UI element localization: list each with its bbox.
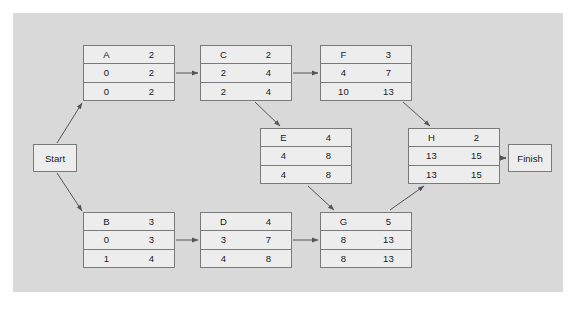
node-a-early-start: 0 bbox=[84, 68, 129, 78]
node-h-late-finish: 15 bbox=[454, 170, 499, 180]
node-b-late-start: 1 bbox=[84, 254, 129, 264]
node-h-name: H bbox=[409, 133, 454, 143]
node-g-late-finish: 13 bbox=[366, 254, 411, 264]
node-d-row-name: D 4 bbox=[201, 213, 291, 231]
node-c-row-name: C 2 bbox=[201, 46, 291, 64]
node-h-early-finish: 15 bbox=[454, 151, 499, 161]
node-b-row-early: 0 3 bbox=[84, 231, 174, 249]
node-b-late-finish: 4 bbox=[129, 254, 174, 264]
node-g-early-finish: 13 bbox=[366, 235, 411, 245]
node-g-row-early: 8 13 bbox=[321, 231, 411, 249]
node-g-duration: 5 bbox=[366, 217, 411, 227]
node-e-row-name: E 4 bbox=[261, 129, 351, 147]
node-a-row-name: A 2 bbox=[84, 46, 174, 64]
node-a-late-start: 0 bbox=[84, 87, 129, 97]
node-d[interactable]: D 4 3 7 4 8 bbox=[200, 212, 292, 268]
terminal-finish[interactable]: Finish bbox=[508, 144, 552, 172]
node-g-late-start: 8 bbox=[321, 254, 366, 264]
node-c-row-early: 2 4 bbox=[201, 64, 291, 82]
node-f[interactable]: F 3 4 7 10 13 bbox=[320, 45, 412, 101]
node-g[interactable]: G 5 8 13 8 13 bbox=[320, 212, 412, 268]
terminal-start-label: Start bbox=[45, 153, 65, 164]
node-c-name: C bbox=[201, 50, 246, 60]
node-f-row-early: 4 7 bbox=[321, 64, 411, 82]
diagram-page: Start Finish A 2 0 2 0 2 C 2 2 4 2 4 bbox=[0, 0, 577, 310]
node-e[interactable]: E 4 4 8 4 8 bbox=[260, 128, 352, 184]
node-f-early-start: 4 bbox=[321, 68, 366, 78]
node-a-late-finish: 2 bbox=[129, 87, 174, 97]
node-b-early-start: 0 bbox=[84, 235, 129, 245]
node-e-late-start: 4 bbox=[261, 170, 306, 180]
node-f-row-late: 10 13 bbox=[321, 83, 411, 100]
node-f-name: F bbox=[321, 50, 366, 60]
node-b[interactable]: B 3 0 3 1 4 bbox=[83, 212, 175, 268]
node-g-name: G bbox=[321, 217, 366, 227]
node-a-duration: 2 bbox=[129, 50, 174, 60]
node-h[interactable]: H 2 13 15 13 15 bbox=[408, 128, 500, 184]
node-d-row-early: 3 7 bbox=[201, 231, 291, 249]
node-c-early-start: 2 bbox=[201, 68, 246, 78]
node-d-duration: 4 bbox=[246, 217, 291, 227]
node-h-early-start: 13 bbox=[409, 151, 454, 161]
terminal-start[interactable]: Start bbox=[33, 144, 77, 172]
node-a-name: A bbox=[84, 50, 129, 60]
node-a-early-finish: 2 bbox=[129, 68, 174, 78]
node-a-row-early: 0 2 bbox=[84, 64, 174, 82]
node-h-duration: 2 bbox=[454, 133, 499, 143]
node-f-row-name: F 3 bbox=[321, 46, 411, 64]
node-b-early-finish: 3 bbox=[129, 235, 174, 245]
node-c-late-start: 2 bbox=[201, 87, 246, 97]
node-c-row-late: 2 4 bbox=[201, 83, 291, 100]
node-f-duration: 3 bbox=[366, 50, 411, 60]
node-b-name: B bbox=[84, 217, 129, 227]
node-c-early-finish: 4 bbox=[246, 68, 291, 78]
node-a[interactable]: A 2 0 2 0 2 bbox=[83, 45, 175, 101]
node-f-early-finish: 7 bbox=[366, 68, 411, 78]
node-d-name: D bbox=[201, 217, 246, 227]
node-d-early-finish: 7 bbox=[246, 235, 291, 245]
node-h-late-start: 13 bbox=[409, 170, 454, 180]
node-e-row-early: 4 8 bbox=[261, 147, 351, 165]
node-h-row-early: 13 15 bbox=[409, 147, 499, 165]
node-b-row-name: B 3 bbox=[84, 213, 174, 231]
node-g-row-late: 8 13 bbox=[321, 250, 411, 267]
node-c-late-finish: 4 bbox=[246, 87, 291, 97]
node-c-duration: 2 bbox=[246, 50, 291, 60]
node-g-early-start: 8 bbox=[321, 235, 366, 245]
node-d-early-start: 3 bbox=[201, 235, 246, 245]
node-d-late-finish: 8 bbox=[246, 254, 291, 264]
node-d-row-late: 4 8 bbox=[201, 250, 291, 267]
node-h-row-name: H 2 bbox=[409, 129, 499, 147]
node-e-early-start: 4 bbox=[261, 151, 306, 161]
node-e-late-finish: 8 bbox=[306, 170, 351, 180]
node-d-late-start: 4 bbox=[201, 254, 246, 264]
node-e-early-finish: 8 bbox=[306, 151, 351, 161]
node-e-name: E bbox=[261, 133, 306, 143]
node-b-duration: 3 bbox=[129, 217, 174, 227]
terminal-finish-label: Finish bbox=[517, 153, 542, 164]
node-a-row-late: 0 2 bbox=[84, 83, 174, 100]
node-e-row-late: 4 8 bbox=[261, 166, 351, 183]
node-f-late-finish: 13 bbox=[366, 87, 411, 97]
node-e-duration: 4 bbox=[306, 133, 351, 143]
node-f-late-start: 10 bbox=[321, 87, 366, 97]
node-g-row-name: G 5 bbox=[321, 213, 411, 231]
node-c[interactable]: C 2 2 4 2 4 bbox=[200, 45, 292, 101]
node-b-row-late: 1 4 bbox=[84, 250, 174, 267]
node-h-row-late: 13 15 bbox=[409, 166, 499, 183]
